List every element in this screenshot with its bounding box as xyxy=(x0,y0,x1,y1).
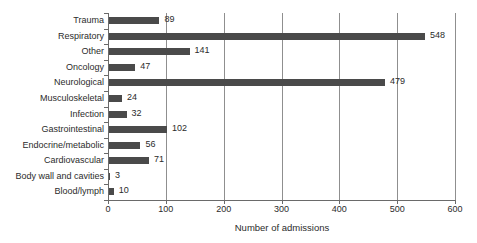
y-axis-tick xyxy=(104,60,109,61)
x-axis-tick xyxy=(339,200,340,204)
x-axis-tick xyxy=(397,200,398,204)
category-label: Trauma xyxy=(0,13,104,29)
category-label: Endocrine/metabolic xyxy=(0,138,104,154)
y-axis-tick xyxy=(104,75,109,76)
bar xyxy=(108,142,140,149)
bar-value-label: 89 xyxy=(164,12,174,28)
x-axis-title: Number of admissions xyxy=(108,222,456,233)
y-axis-tick xyxy=(104,13,109,14)
bar-value-label: 47 xyxy=(140,59,150,75)
bar-row: 548 xyxy=(108,29,455,45)
bar-row: 89 xyxy=(108,13,455,29)
bar-row: 102 xyxy=(108,122,455,138)
y-axis-tick xyxy=(104,153,109,154)
y-axis-tick xyxy=(104,29,109,30)
category-label: Oncology xyxy=(0,60,104,76)
bar-row: 141 xyxy=(108,44,455,60)
x-axis-tick xyxy=(108,200,109,204)
bar-value-label: 548 xyxy=(430,28,445,44)
category-label: Musculoskeletal xyxy=(0,91,104,107)
bar xyxy=(108,79,385,86)
y-axis-tick xyxy=(104,91,109,92)
category-label: Body wall and cavities xyxy=(0,169,104,185)
bar-value-label: 56 xyxy=(145,137,155,153)
bar-row: 3 xyxy=(108,169,455,185)
bar xyxy=(108,95,122,102)
x-axis-tick xyxy=(455,200,456,204)
y-axis-tick xyxy=(104,169,109,170)
gridline-600 xyxy=(455,13,456,200)
y-axis-tick xyxy=(104,44,109,45)
y-axis-tick xyxy=(104,184,109,185)
bar-row: 71 xyxy=(108,153,455,169)
bar-value-label: 32 xyxy=(132,106,142,122)
x-tick-label-100: 100 xyxy=(158,204,173,214)
bar-value-label: 479 xyxy=(390,74,405,90)
bar-value-label: 71 xyxy=(154,152,164,168)
y-axis-tick xyxy=(104,138,109,139)
category-label: Cardiovascular xyxy=(0,153,104,169)
x-axis-tick xyxy=(282,200,283,204)
bar-value-label: 102 xyxy=(172,121,187,137)
x-axis-tick xyxy=(166,200,167,204)
bar-row: 24 xyxy=(108,91,455,107)
bar xyxy=(108,48,190,55)
bar-row: 32 xyxy=(108,107,455,123)
category-label: Respiratory xyxy=(0,29,104,45)
bar xyxy=(108,33,425,40)
bar-value-label: 141 xyxy=(195,43,210,59)
bar xyxy=(108,157,149,164)
bar-row: 47 xyxy=(108,60,455,76)
category-label: Other xyxy=(0,44,104,60)
category-axis-labels: TraumaRespiratoryOtherOncologyNeurologic… xyxy=(0,13,104,200)
bar-value-label: 3 xyxy=(115,168,120,184)
x-tick-label-400: 400 xyxy=(332,204,347,214)
bar-value-label: 24 xyxy=(127,90,137,106)
x-tick-label-0: 0 xyxy=(105,204,110,214)
x-axis-tick xyxy=(224,200,225,204)
category-label: Blood/lymph xyxy=(0,184,104,200)
admissions-bar-chart: TraumaRespiratoryOtherOncologyNeurologic… xyxy=(0,0,477,243)
category-label: Neurological xyxy=(0,75,104,91)
x-tick-label-200: 200 xyxy=(216,204,231,214)
y-axis-tick xyxy=(104,107,109,108)
x-tick-label-500: 500 xyxy=(390,204,405,214)
category-label: Gastrointestinal xyxy=(0,122,104,138)
bar-row: 56 xyxy=(108,138,455,154)
bar-row: 10 xyxy=(108,184,455,200)
bar xyxy=(108,111,127,118)
bar xyxy=(108,17,159,24)
y-axis-tick xyxy=(104,122,109,123)
bar-row: 479 xyxy=(108,75,455,91)
plot-area: 895481414747924321025671310 xyxy=(108,13,455,200)
bar xyxy=(108,64,135,71)
x-tick-label-300: 300 xyxy=(274,204,289,214)
bar xyxy=(108,126,167,133)
x-tick-label-600: 600 xyxy=(447,204,462,214)
bar-value-label: 10 xyxy=(119,183,129,199)
category-label: Infection xyxy=(0,107,104,123)
